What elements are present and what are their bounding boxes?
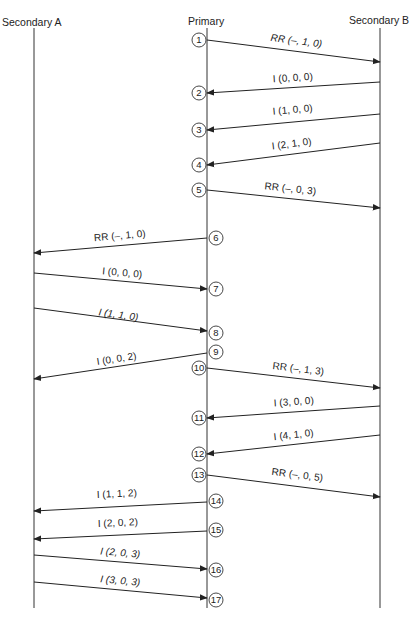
step-number: 13 <box>194 469 205 480</box>
step-number: 11 <box>194 412 204 423</box>
message-label: RR (–, 1, 0) <box>270 32 323 49</box>
message-label: I (3, 0, 3) <box>100 573 141 588</box>
step-number: 15 <box>211 524 222 535</box>
message-label: I (2, 0, 3) <box>100 545 141 559</box>
step-number: 3 <box>196 124 201 135</box>
message-label: RR (–, 1, 0) <box>93 228 145 243</box>
header-secondary-b: Secondary B <box>349 14 409 26</box>
step-number: 16 <box>211 564 222 575</box>
step-number: 14 <box>211 495 222 506</box>
message-label: RR (–, 0, 3) <box>264 180 317 196</box>
message-label: I (4, 1, 0) <box>273 427 314 442</box>
message-arrow <box>207 114 380 130</box>
message-arrow <box>207 82 380 93</box>
step-number: 10 <box>194 362 205 373</box>
message-arrow <box>34 531 207 539</box>
message-label: I (2, 0, 2) <box>98 516 138 529</box>
step-number: 7 <box>213 283 218 294</box>
message-label: I (1, 0, 0) <box>272 102 313 117</box>
message-label: RR (–, 0, 5) <box>271 466 324 483</box>
step-number: 8 <box>213 327 218 338</box>
step-number: 1 <box>196 34 201 45</box>
step-number: 12 <box>194 448 205 459</box>
sequence-diagram: Secondary A Primary Secondary B RR (–, 1… <box>0 0 416 620</box>
step-number: 6 <box>213 232 218 243</box>
message-arrow <box>207 406 380 418</box>
message-label: I (0, 0, 0) <box>102 265 143 280</box>
message-label: I (0, 0, 0) <box>272 71 313 85</box>
step-number: 4 <box>196 159 201 170</box>
message-label: I (2, 1, 0) <box>271 136 312 152</box>
header-secondary-a: Secondary A <box>2 16 62 28</box>
message-label: RR (–, 1, 3) <box>272 360 325 377</box>
message-label: I (1, 1, 0) <box>98 306 139 322</box>
message-arrow <box>34 502 207 511</box>
header-primary: Primary <box>188 15 225 27</box>
step-number: 2 <box>196 87 201 98</box>
step-number: 17 <box>211 594 222 605</box>
message-label: I (3, 0, 0) <box>273 395 314 409</box>
step-number: 9 <box>213 346 218 357</box>
message-label: I (1, 1, 2) <box>97 487 138 500</box>
step-number: 5 <box>196 184 201 195</box>
